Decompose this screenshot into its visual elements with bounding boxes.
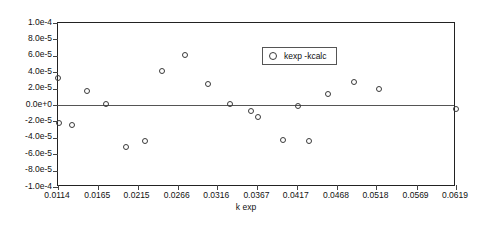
data-point <box>142 138 148 144</box>
y-axis-tick-label: 8.0e-5 <box>4 34 52 43</box>
scatter-chart: 1.0e-48.0e-56.0e-54.0e-52.0e-50.0e+0-2.0… <box>0 0 492 228</box>
data-point <box>159 68 165 74</box>
legend: kexp -kcalc <box>262 47 337 65</box>
data-point <box>351 79 357 85</box>
data-point <box>69 122 75 128</box>
data-point <box>227 101 233 107</box>
y-axis-tick <box>53 23 58 24</box>
y-axis-tick-label: 0.0e+0 <box>4 100 52 109</box>
y-axis-tick <box>53 105 58 106</box>
y-axis-tick <box>53 56 58 57</box>
y-axis-tick-label: 1.0e-4 <box>4 18 52 27</box>
data-point <box>84 88 90 94</box>
data-point <box>182 52 188 58</box>
y-axis-tick-label: -6.0e-5 <box>4 149 52 158</box>
x-axis-tick-label: 0.0316 <box>203 190 229 200</box>
plot-area <box>57 22 455 186</box>
zero-reference-line <box>58 105 454 106</box>
y-axis-tick <box>53 138 58 139</box>
data-point <box>205 81 211 87</box>
x-axis-tick-label: 0.0165 <box>84 190 110 200</box>
x-axis-tick-label: 0.0569 <box>403 190 429 200</box>
x-axis-title: k exp <box>0 202 492 212</box>
y-axis-tick <box>53 72 58 73</box>
y-axis-tick <box>53 154 58 155</box>
y-axis-tick <box>53 39 58 40</box>
x-axis-tick-label: 0.0417 <box>283 190 309 200</box>
y-axis-tick-label: -8.0e-5 <box>4 165 52 174</box>
data-point <box>255 114 261 120</box>
x-axis-tick-label: 0.0367 <box>243 190 269 200</box>
data-point <box>453 106 459 112</box>
y-axis-tick-label: 6.0e-5 <box>4 50 52 59</box>
data-point <box>280 137 286 143</box>
x-axis-tick-label: 0.0468 <box>323 190 349 200</box>
y-axis-tick-label: 2.0e-5 <box>4 83 52 92</box>
x-axis-tick-label: 0.0266 <box>164 190 190 200</box>
data-point <box>306 138 312 144</box>
data-point <box>295 103 301 109</box>
y-axis-tick-label: -4.0e-5 <box>4 132 52 141</box>
x-axis-tick-label: 0.0518 <box>362 190 388 200</box>
y-axis-tick <box>53 89 58 90</box>
y-axis-tick <box>53 171 58 172</box>
data-point <box>123 144 129 150</box>
y-axis-tick-label: 4.0e-5 <box>4 67 52 76</box>
x-axis-tick-label: 0.0215 <box>124 190 150 200</box>
data-point <box>55 75 61 81</box>
y-axis-tick <box>53 121 58 122</box>
data-point <box>376 86 382 92</box>
data-point <box>248 108 254 114</box>
y-axis-tick-label: -2.0e-5 <box>4 116 52 125</box>
y-axis-tick <box>53 187 58 188</box>
legend-marker-icon <box>269 52 277 60</box>
legend-label: kexp -kcalc <box>284 51 327 61</box>
data-point <box>325 91 331 97</box>
x-axis-tick-label: 0.0619 <box>442 190 468 200</box>
x-axis-tick-label: 0.0114 <box>44 190 69 200</box>
